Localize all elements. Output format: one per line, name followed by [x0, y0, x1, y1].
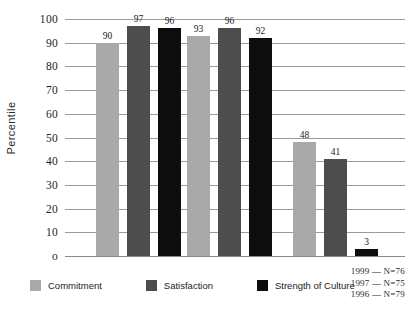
legend-label: Commitment: [48, 280, 102, 291]
legend-label: Strength of Culture: [275, 280, 355, 291]
y-axis-title-text: Percentile: [5, 102, 17, 155]
y-axis-tick-labels: o102030405060708090100: [24, 19, 58, 256]
bar-chart: Percentile o102030405060708090100 909796…: [0, 0, 414, 316]
y-axis-tick-label: 60: [24, 108, 58, 120]
y-axis-tick-label: 50: [24, 132, 58, 144]
chart-legend: CommitmentSatisfactionStrength of Cultur…: [30, 280, 399, 291]
bar-value-label: 3: [364, 237, 369, 247]
bar-value-label: 48: [300, 130, 310, 140]
legend-swatch-icon: [257, 280, 268, 291]
gridline: [65, 256, 405, 257]
y-axis-tick-label: 100: [24, 13, 58, 25]
y-axis-tick-label: 30: [24, 179, 58, 191]
bar-value-label: 90: [103, 31, 113, 41]
sample-size-note: 1999 — N=76: [351, 266, 405, 278]
bar: 41: [324, 159, 347, 256]
bar-value-label: 93: [194, 24, 204, 34]
y-axis-tick-label: 80: [24, 60, 58, 72]
bar: 90: [96, 43, 119, 256]
y-axis-tick-label: 20: [24, 203, 58, 215]
bar: 93: [187, 36, 210, 256]
y-axis-tick-label: 70: [24, 84, 58, 96]
y-axis-tick-label: 90: [24, 37, 58, 49]
sample-size-notes: 1999 — N=761997 — N=751996 — N=79: [351, 266, 405, 301]
legend-item[interactable]: Satisfaction: [146, 280, 213, 291]
legend-label: Satisfaction: [164, 280, 213, 291]
y-axis-tick-label: o: [24, 250, 58, 262]
bar-value-label: 96: [225, 16, 235, 26]
legend-swatch-icon: [146, 280, 157, 291]
gridline: [65, 19, 405, 20]
plot-area: 90979693969248413: [65, 19, 405, 256]
bar: 3: [355, 249, 378, 256]
bar-value-label: 41: [331, 147, 341, 157]
y-axis-tick-label: 10: [24, 226, 58, 238]
sample-size-note: 1997 — N=75: [351, 278, 405, 290]
bar: 97: [127, 26, 150, 256]
legend-item[interactable]: Strength of Culture: [257, 280, 355, 291]
bar: 48: [293, 142, 316, 256]
legend-item[interactable]: Commitment: [30, 280, 102, 291]
bar-value-label: 97: [134, 14, 144, 24]
legend-swatch-icon: [30, 280, 41, 291]
bar-value-label: 92: [256, 26, 266, 36]
bar: 96: [218, 28, 241, 256]
bar: 92: [249, 38, 272, 256]
y-axis-title: Percentile: [2, 0, 20, 256]
y-axis-tick-label: 40: [24, 155, 58, 167]
bar: 96: [158, 28, 181, 256]
bar-value-label: 96: [165, 16, 175, 26]
sample-size-note: 1996 — N=79: [351, 289, 405, 301]
